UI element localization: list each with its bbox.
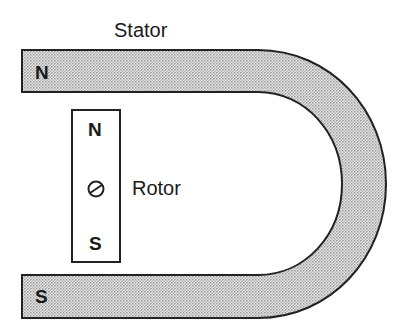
- stator-north-pole-label: N: [35, 62, 49, 84]
- rotor-label: Rotor: [132, 177, 181, 200]
- magnet-diagram: [0, 0, 401, 333]
- stator-label: Stator: [114, 19, 167, 42]
- rotor-north-pole-label: N: [88, 119, 102, 141]
- stator-south-pole-label: S: [35, 286, 48, 308]
- rotor-south-pole-label: S: [89, 233, 102, 255]
